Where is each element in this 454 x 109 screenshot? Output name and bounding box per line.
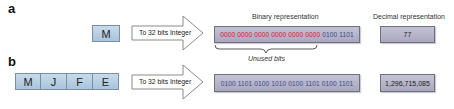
decimal-value: 1,296,715,085 [385, 80, 430, 87]
input-char-box: E [93, 73, 119, 90]
unused-bits-label: Unused bits [248, 55, 285, 62]
used-bits-text: 0100 1101 [322, 31, 354, 38]
input-char: M [101, 28, 110, 40]
input-char-box: M [15, 73, 41, 90]
binary-caption: Binary representation [252, 13, 319, 20]
decimal-representation-box: 1,296,715,085 [380, 74, 435, 92]
arrow-label: To 32 bits Integer [139, 29, 191, 36]
panel-label-b: b [8, 54, 16, 69]
decimal-caption: Decimal representation [373, 13, 445, 20]
binary-representation-box: 0100 1101 0100 1010 0100 1101 0100 1101 [214, 74, 360, 92]
unused-bits-text: 0000 0000 0000 0000 0000 0000 [220, 31, 320, 38]
input-char-box: M [92, 25, 120, 42]
panel-label-a: a [8, 1, 15, 16]
binary-value: 0100 1101 0100 1010 0100 1101 0100 1101 [221, 80, 354, 87]
input-char-box: J [41, 73, 67, 90]
decimal-value: 77 [404, 31, 412, 38]
binary-representation-box: 0000 0000 0000 0000 0000 0000 0100 1101 [214, 26, 360, 43]
decimal-representation-box: 77 [380, 26, 435, 43]
input-chars-row: M J F E [15, 73, 119, 90]
brace-icon [214, 44, 318, 54]
arrow-label: To 32 bits Integer [139, 78, 191, 85]
input-char-box: F [67, 73, 93, 90]
